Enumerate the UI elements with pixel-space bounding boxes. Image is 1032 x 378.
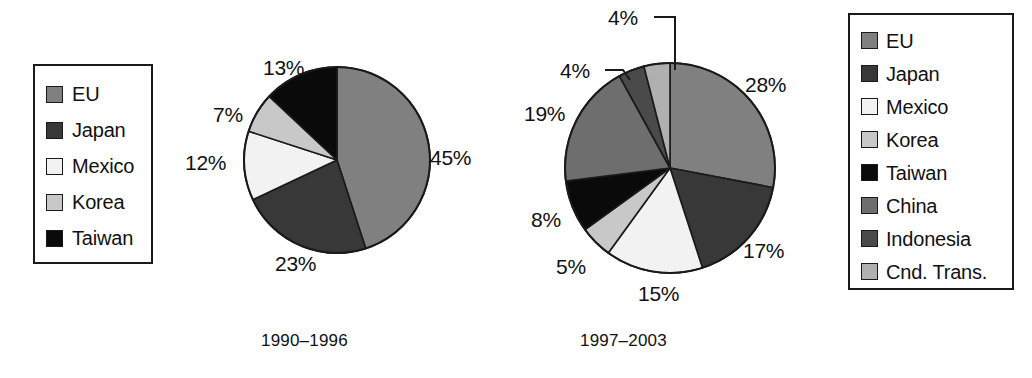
pct-right-mexico: 15% <box>638 283 679 304</box>
pct-left-mexico: 12% <box>185 152 226 173</box>
legend-item-cnd-trans: Cnd. Trans. <box>861 255 1012 288</box>
legend-label-mexico: Mexico <box>886 97 948 117</box>
figure-canvas: EU Japan Mexico Korea Taiwan 45% 23% 12%… <box>0 0 1032 378</box>
legend-label-indonesia: Indonesia <box>886 229 971 249</box>
legend-label-japan: Japan <box>886 64 940 84</box>
pct-left-korea: 7% <box>213 104 243 125</box>
legend-label-korea: Korea <box>886 130 938 150</box>
legend-swatch-korea <box>46 194 63 211</box>
legend-label-taiwan: Taiwan <box>72 228 133 248</box>
legend-label-cnd-trans: Cnd. Trans. <box>886 262 987 282</box>
legend-swatch-taiwan <box>861 164 878 181</box>
legend-item-japan: Japan <box>46 112 151 148</box>
pie-1990-1996-svg <box>232 55 442 265</box>
caption-1990-1996: 1990–1996 <box>261 332 348 349</box>
pct-left-taiwan: 13% <box>263 57 304 78</box>
legend-label-mexico: Mexico <box>72 156 134 176</box>
legend-swatch-japan <box>46 122 63 139</box>
legend-label-eu: EU <box>886 31 913 51</box>
legend-item-eu: EU <box>861 24 1012 57</box>
pct-right-china: 19% <box>524 103 565 124</box>
legend-item-china: China <box>861 189 1012 222</box>
pct-right-taiwan: 8% <box>531 209 561 230</box>
legend-1990-1996: EU Japan Mexico Korea Taiwan <box>33 64 153 264</box>
caption-1997-2003: 1997–2003 <box>580 332 667 349</box>
legend-swatch-mexico <box>861 98 878 115</box>
pct-left-eu: 45% <box>430 147 471 168</box>
legend-item-korea: Korea <box>46 184 151 220</box>
legend-swatch-japan <box>861 65 878 82</box>
legend-label-japan: Japan <box>72 120 126 140</box>
pct-right-korea: 5% <box>556 256 586 277</box>
legend-item-eu: EU <box>46 76 151 112</box>
legend-item-mexico: Mexico <box>46 148 151 184</box>
pct-right-cnd-trans: 4% <box>608 7 638 28</box>
pct-right-indonesia: 4% <box>560 60 590 81</box>
legend-swatch-indonesia <box>861 230 878 247</box>
pie-chart-1990-1996 <box>232 55 442 265</box>
legend-label-taiwan: Taiwan <box>886 163 947 183</box>
legend-item-mexico: Mexico <box>861 90 1012 123</box>
legend-label-korea: Korea <box>72 192 124 212</box>
pct-right-eu: 28% <box>745 74 786 95</box>
legend-swatch-mexico <box>46 158 63 175</box>
legend-item-taiwan: Taiwan <box>861 156 1012 189</box>
legend-label-eu: EU <box>72 84 99 104</box>
legend-item-taiwan: Taiwan <box>46 220 151 256</box>
legend-swatch-eu <box>861 32 878 49</box>
legend-swatch-taiwan <box>46 230 63 247</box>
legend-swatch-korea <box>861 131 878 148</box>
legend-label-china: China <box>886 196 937 216</box>
legend-item-korea: Korea <box>861 123 1012 156</box>
legend-item-japan: Japan <box>861 57 1012 90</box>
pct-left-japan: 23% <box>275 253 316 274</box>
legend-item-indonesia: Indonesia <box>861 222 1012 255</box>
pct-right-japan: 17% <box>743 240 784 261</box>
legend-swatch-china <box>861 197 878 214</box>
legend-swatch-eu <box>46 86 63 103</box>
legend-1997-2003: EU Japan Mexico Korea Taiwan China Indon… <box>848 13 1014 290</box>
legend-swatch-cnd-trans <box>861 263 878 280</box>
